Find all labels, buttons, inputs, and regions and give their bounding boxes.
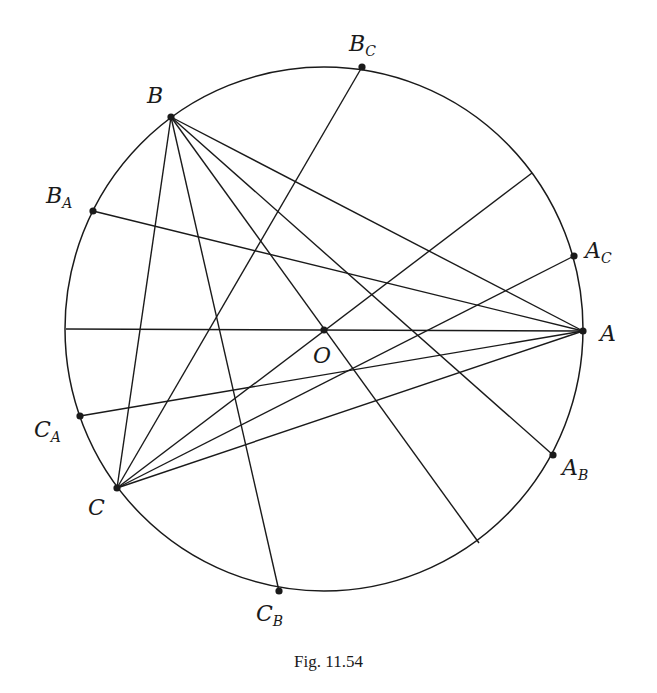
segment bbox=[117, 117, 171, 488]
label-o: O bbox=[313, 345, 331, 367]
segment bbox=[117, 67, 362, 488]
point-a bbox=[579, 327, 586, 334]
label-ab: AB bbox=[562, 457, 588, 482]
label-ca: CA bbox=[34, 419, 61, 444]
point-ba bbox=[89, 207, 96, 214]
point-b bbox=[167, 113, 174, 120]
label-a: A bbox=[600, 323, 616, 345]
segment bbox=[93, 211, 583, 331]
label-b: B bbox=[147, 85, 163, 107]
point-bc bbox=[358, 63, 365, 70]
point-ac bbox=[570, 252, 577, 259]
point-o bbox=[320, 326, 327, 333]
figure-caption: Fig. 11.54 bbox=[0, 652, 657, 672]
label-cb: CB bbox=[256, 603, 283, 628]
point-cb bbox=[275, 587, 282, 594]
segment bbox=[117, 331, 583, 488]
segment bbox=[80, 331, 583, 416]
label-c: C bbox=[88, 497, 105, 519]
label-ba: BA bbox=[46, 185, 72, 210]
label-ac: AC bbox=[585, 240, 612, 265]
point-ca bbox=[76, 412, 83, 419]
segment bbox=[171, 117, 279, 591]
point-c bbox=[113, 484, 120, 491]
label-bc: BC bbox=[349, 33, 376, 58]
point-ab bbox=[549, 451, 556, 458]
